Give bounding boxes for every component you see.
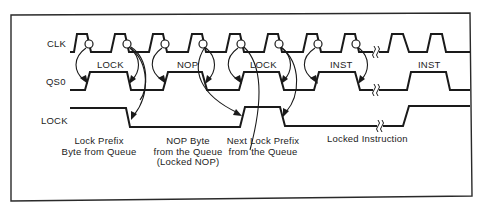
caption-line: from the Queue — [227, 147, 299, 158]
signal-label-clk: CLK — [47, 39, 66, 50]
bus-label-nop: NOP — [177, 60, 198, 71]
caption-nop-byte: NOP Byte from the Queue (Locked NOP) — [154, 136, 223, 168]
caption-line: (Locked NOP) — [154, 157, 223, 168]
bus-label-inst: INST — [330, 60, 352, 71]
bus-label-lock-2: LOCK — [250, 60, 277, 71]
bus-label-lock: LOCK — [97, 60, 124, 71]
caption-line: Byte from Queue — [62, 147, 137, 158]
qs0-waveform — [70, 72, 470, 96]
caption-line: Next Lock Prefix — [227, 136, 299, 147]
caption-locked-instruction: Locked Instruction — [327, 134, 408, 145]
caption-line: Lock Prefix — [62, 136, 137, 147]
sample-circles — [85, 40, 360, 48]
signal-label-lock: LOCK — [41, 116, 68, 127]
signal-label-qs0: QS0 — [46, 77, 66, 88]
caption-lock-prefix: Lock Prefix Byte from Queue — [62, 136, 137, 157]
caption-line: Locked Instruction — [327, 134, 408, 145]
caption-line: NOP Byte — [154, 136, 223, 147]
bus-label-inst-2: INST — [418, 60, 440, 71]
lock-waveform — [70, 106, 470, 132]
timing-diagram — [0, 0, 481, 210]
caption-next-lock-prefix: Next Lock Prefix from the Queue — [227, 136, 299, 157]
